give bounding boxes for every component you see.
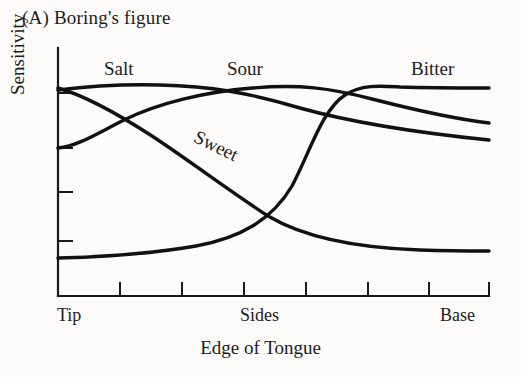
x-tick-label-base: Base (440, 305, 475, 326)
figure-panel: (A) Boring's figure (0, 0, 521, 377)
x-axis-title: Edge of Tongue (0, 337, 521, 359)
y-axis-title: Sensitivity (7, 0, 29, 95)
x-axis-ticks (120, 283, 489, 296)
curve-label-sour: Sour (227, 58, 263, 80)
curve-label-bitter: Bitter (411, 58, 454, 80)
x-tick-label-tip: Tip (57, 305, 81, 326)
y-axis-ticks (58, 93, 72, 241)
curve-label-salt: Salt (104, 58, 134, 80)
x-tick-label-sides: Sides (240, 305, 279, 326)
